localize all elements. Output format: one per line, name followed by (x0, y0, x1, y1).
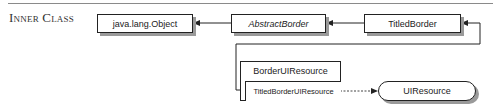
arrowhead-icon (193, 20, 200, 26)
arrowhead-icon (326, 20, 333, 26)
outer-class-label: BorderUIResource (241, 66, 340, 76)
class-label: java.lang.Object (113, 19, 178, 29)
class-box-java-lang-object[interactable]: java.lang.Object (97, 14, 193, 33)
class-label: AbstractBorder (248, 19, 308, 29)
arrowhead-icon (461, 20, 468, 26)
class-label: TitledBorder (388, 19, 437, 29)
class-box-titled-border[interactable]: TitledBorder (364, 14, 461, 33)
arrowhead-icon (371, 88, 378, 94)
class-box-titled-border-ui-resource[interactable]: TitledBorderUIResource (245, 81, 341, 101)
class-box-abstract-border[interactable]: AbstractBorder (231, 14, 326, 33)
interface-pill-ui-resource[interactable]: UIResource (378, 81, 476, 101)
inner-class-label: TitledBorderUIResource (253, 87, 333, 96)
class-box-border-ui-resource[interactable]: BorderUIResource TitledBorderUIResource (240, 61, 341, 101)
interface-label: UIResource (403, 86, 451, 96)
